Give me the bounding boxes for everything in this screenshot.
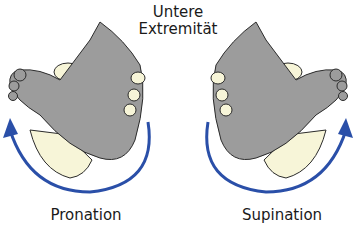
foot-shape <box>213 22 346 160</box>
supination-foot-illustration <box>178 0 356 210</box>
pronation-label: Pronation <box>26 206 146 224</box>
foot-shape <box>10 22 143 160</box>
supination-label: Supination <box>222 206 342 224</box>
pronation-foot-illustration <box>0 0 178 210</box>
